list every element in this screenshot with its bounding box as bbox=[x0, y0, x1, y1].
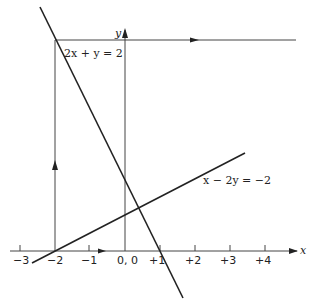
y-axis-label: y bbox=[114, 27, 122, 40]
tick-label: +4 bbox=[255, 254, 271, 267]
tick-label: −1 bbox=[81, 254, 97, 267]
tick-labels: −3 −2 −1 0, 0 +1 +2 +3 +4 bbox=[13, 254, 271, 267]
right-arrow-icon bbox=[190, 38, 199, 43]
x-axis-arrow-icon bbox=[289, 248, 298, 254]
tick-label: 0, 0 bbox=[117, 254, 138, 267]
tick-label: −2 bbox=[47, 254, 63, 267]
tick-label: +2 bbox=[185, 254, 201, 267]
tick-label: −3 bbox=[13, 254, 29, 267]
x-axis-label: x bbox=[300, 244, 307, 257]
x-axis-left-arrow-icon bbox=[98, 249, 106, 254]
line-x-minus-2y-eq-neg2 bbox=[32, 153, 245, 263]
tick-label: +3 bbox=[220, 254, 236, 267]
diagram-canvas: x −3 −2 −1 0, 0 +1 +2 +3 +4 y 2x + y = 2… bbox=[0, 0, 309, 308]
equation-label-1: 2x + y = 2 bbox=[64, 47, 123, 60]
equation-label-2: x − 2y = −2 bbox=[203, 174, 271, 187]
y-axis-arrow-icon bbox=[122, 28, 128, 38]
up-arrow-icon bbox=[52, 160, 58, 170]
